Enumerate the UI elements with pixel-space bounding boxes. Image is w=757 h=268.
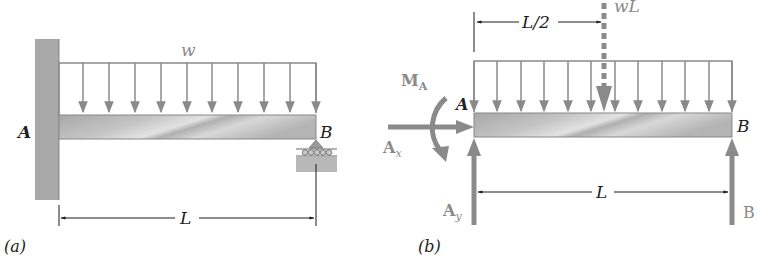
- reaction-ay: [467, 138, 481, 225]
- moment-ma: [432, 98, 449, 162]
- fixed-wall: [35, 39, 59, 200]
- load-label-w: w: [181, 40, 196, 60]
- beam-b: [474, 113, 732, 137]
- ax-label: Ax: [382, 138, 402, 160]
- point-a-label-b: A: [454, 95, 468, 114]
- length-label-a: L: [179, 208, 191, 228]
- point-b-label-b: B: [736, 116, 750, 136]
- point-a-label: A: [16, 122, 31, 142]
- length-label-b: L: [595, 182, 607, 202]
- beam-a: [59, 115, 316, 139]
- resultant-force-wl: [596, 3, 612, 112]
- half-length-label: L/2: [521, 12, 550, 32]
- distributed-load-a: [59, 63, 316, 115]
- beam-diagram: w A B L (a): [0, 0, 757, 268]
- resultant-label: wL: [614, 0, 640, 16]
- point-b-label: B: [319, 122, 333, 142]
- moment-label: MA: [401, 71, 428, 93]
- figure-a: w A B L (a): [4, 39, 337, 256]
- ay-label: Ay: [442, 201, 462, 223]
- figure-b: L/2 wL A B: [382, 0, 755, 256]
- caption-a: (a): [4, 237, 26, 256]
- reaction-b: [725, 138, 739, 225]
- b-reaction-label: B: [743, 203, 755, 222]
- caption-b: (b): [418, 237, 441, 256]
